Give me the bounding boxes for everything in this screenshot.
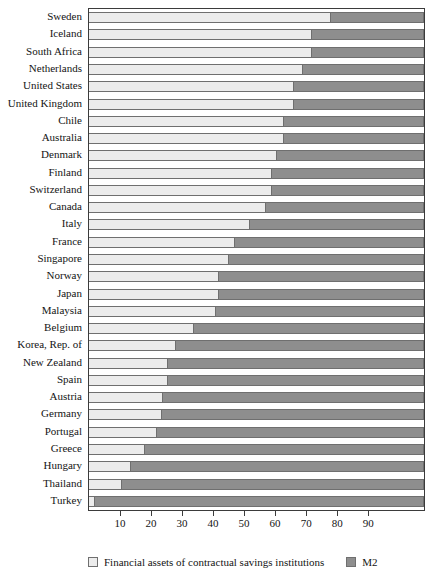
bar-segment-financial-assets [89,272,219,281]
bar-row [89,254,424,265]
stacked-bar [89,150,424,161]
bar-segment-m2 [157,428,423,437]
stacked-bar [89,375,424,386]
stacked-bar [89,12,424,23]
y-axis-label: Spain [57,374,82,385]
x-axis-tick [182,511,183,516]
x-axis-tick-label: 10 [115,517,126,529]
bar-row [89,375,424,386]
bar-row [89,409,424,420]
stacked-bar [89,271,424,282]
legend-label: M2 [362,556,377,568]
stacked-bar [89,409,424,420]
bar-segment-m2 [163,393,423,402]
x-axis-tick-label: 40 [208,517,219,529]
bar-row [89,271,424,282]
bar-row [89,168,424,179]
bar-rows [89,9,424,510]
legend-swatch-financial-assets-icon [88,557,98,567]
bar-segment-financial-assets [89,30,312,39]
bar-row [89,358,424,369]
stacked-bar [89,479,424,490]
bar-segment-financial-assets [89,117,284,126]
bar-row [89,289,424,300]
y-axis-label: New Zealand [23,357,82,368]
bar-row [89,99,424,110]
bar-segment-financial-assets [89,428,157,437]
legend-swatch-m2-icon [346,557,356,567]
bar-segment-m2 [303,65,423,74]
stacked-bar [89,289,424,300]
stacked-bar [89,237,424,248]
bar-row [89,64,424,75]
bar-row [89,461,424,472]
x-axis-tick-label: 30 [177,517,188,529]
y-axis-label: France [52,236,82,247]
stacked-bar [89,427,424,438]
stacked-bar [89,81,424,92]
bar-segment-m2 [331,13,423,22]
bar-row [89,29,424,40]
y-axis-label: Switzerland [29,184,82,195]
y-axis-label: Norway [47,270,82,281]
bar-segment-m2 [312,30,423,39]
y-axis-label: Thailand [43,478,82,489]
stacked-bar-chart: SwedenIcelandSouth AfricaNetherlandsUnit… [0,0,432,578]
bar-row [89,306,424,317]
bar-segment-financial-assets [89,203,266,212]
bar-segment-financial-assets [89,186,272,195]
bar-segment-financial-assets [89,290,219,299]
stacked-bar [89,340,424,351]
stacked-bar [89,168,424,179]
bar-segment-financial-assets [89,359,168,368]
bar-segment-m2 [312,48,423,57]
y-axis-label: Portugal [45,426,82,437]
bar-segment-m2 [176,341,423,350]
bar-segment-m2 [168,376,423,385]
bar-segment-financial-assets [89,13,331,22]
bar-segment-m2 [284,117,423,126]
y-axis-label: United States [23,80,82,91]
bar-segment-financial-assets [89,480,122,489]
legend-item: Financial assets of contractual savings … [88,556,324,568]
x-axis-tick-label: 90 [363,517,374,529]
bar-segment-m2 [294,100,423,109]
bar-segment-financial-assets [89,238,235,247]
bar-segment-m2 [162,410,423,419]
stacked-bar [89,496,424,507]
y-axis-label: Japan [57,288,82,299]
bar-row [89,12,424,23]
y-axis-label: Iceland [50,28,82,39]
bar-row [89,444,424,455]
legend-label: Financial assets of contractual savings … [104,556,324,568]
x-axis-tick-label: 20 [146,517,157,529]
stacked-bar [89,185,424,196]
y-axis-label: Korea, Rep. of [17,339,82,350]
bar-segment-financial-assets [89,100,294,109]
bar-row [89,340,424,351]
bar-row [89,237,424,248]
bar-row [89,185,424,196]
bar-segment-m2 [294,82,423,91]
bar-segment-m2 [131,462,423,471]
x-axis-tick [337,511,338,516]
bar-row [89,392,424,403]
bar-segment-financial-assets [89,65,303,74]
stacked-bar [89,392,424,403]
bar-row [89,479,424,490]
stacked-bar [89,306,424,317]
bar-row [89,496,424,507]
bar-segment-m2 [168,359,423,368]
x-axis-tick [120,511,121,516]
bar-row [89,323,424,334]
stacked-bar [89,358,424,369]
bar-segment-m2 [229,255,423,264]
bar-segment-financial-assets [89,462,131,471]
bar-segment-financial-assets [89,169,272,178]
y-axis-label: Turkey [51,495,82,506]
bar-row [89,116,424,127]
x-axis-tick [306,511,307,516]
bar-segment-financial-assets [89,324,194,333]
bar-segment-m2 [219,272,423,281]
y-axis-label: Finland [48,167,82,178]
